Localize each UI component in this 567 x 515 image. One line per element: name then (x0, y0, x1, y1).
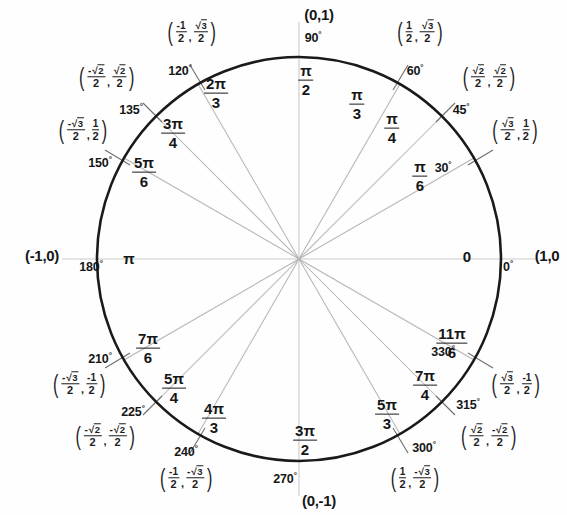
numerator: π (349, 87, 364, 105)
degree-symbol: ° (477, 397, 480, 406)
denominator: 4 (161, 133, 185, 150)
axis-point-bottom: (0,-1) (302, 493, 336, 508)
right-paren: ) (532, 120, 537, 142)
numerator: √2 (469, 425, 484, 436)
right-paren: ) (130, 67, 135, 89)
fraction-pi-over-4: π 4 (384, 111, 399, 146)
denominator: 2 (497, 77, 503, 89)
numerator: √3 (420, 21, 435, 32)
coordinate-pair: (-12,√32) (166, 21, 218, 44)
numerator: 5π (132, 155, 156, 173)
numerator: -1 (521, 373, 532, 384)
denominator: 2 (73, 130, 79, 142)
denominator: 2 (114, 436, 120, 448)
numerator: π (384, 111, 399, 129)
denominator: 2 (475, 77, 481, 89)
axis-point-right: (1,0 (535, 248, 560, 263)
denominator: 2 (505, 130, 511, 142)
numerator: √2 (493, 66, 508, 77)
denominator: 3 (202, 418, 226, 435)
numerator: 2π (204, 76, 228, 94)
degree-symbol: ° (433, 440, 436, 449)
degree-symbol: ° (109, 155, 112, 164)
coordinate-fraction: -√22 (490, 425, 510, 448)
fraction-5pi-over-4: 5π 4 (162, 371, 186, 406)
denominator: 4 (384, 128, 399, 145)
denominator: 2 (424, 32, 430, 44)
degree-label-60: 60° (407, 64, 424, 78)
radian-label-150: 5π 6 (132, 155, 156, 190)
degree-symbol: ° (448, 160, 451, 169)
axis-point-top: (0,1) (304, 7, 333, 22)
fraction-pi-over-3: π 3 (349, 87, 364, 122)
degree-value-60: 60 (407, 64, 421, 78)
left-paren: ( (492, 374, 497, 396)
numerator: -√2 (491, 425, 509, 436)
degree-symbol: ° (100, 259, 103, 268)
coordinate-pair: (12,-√32) (389, 467, 441, 490)
coordinate-fraction: -√22 (108, 425, 128, 448)
radian-label-210: 7π 6 (136, 331, 160, 366)
degree-value-270: 270 (273, 472, 293, 486)
numerator: √3 (194, 21, 209, 32)
denominator: 2 (524, 384, 530, 396)
left-paren: ( (168, 22, 173, 44)
fraction-4pi-over-3: 4π 3 (202, 401, 226, 436)
left-paren: ( (76, 426, 81, 448)
coordinate-fraction: √22 (111, 66, 128, 89)
coordinate-fraction: -√32 (412, 467, 432, 490)
fraction-pi-over-2: π 2 (298, 63, 313, 98)
degree-value-120: 120 (168, 64, 188, 78)
denominator: 2 (419, 478, 425, 490)
coordinate-label-120: (-12,√32) (166, 21, 218, 44)
radian-label-120: 2π 3 (204, 76, 228, 111)
degree-symbol: ° (142, 404, 145, 413)
left-paren: ( (79, 67, 84, 89)
numerator: 3π (293, 423, 317, 441)
degree-value-180: 180 (79, 260, 99, 274)
numerator: -√3 (186, 467, 204, 478)
coordinate-fraction: √32 (499, 119, 516, 142)
left-paren: ( (160, 468, 165, 490)
degree-value-30: 30 (435, 161, 449, 175)
numerator: 1 (405, 21, 413, 32)
left-paren: ( (463, 67, 468, 89)
degree-symbol: ° (294, 471, 297, 480)
radian-label-240: 4π 3 (202, 401, 226, 436)
numerator: -1 (86, 373, 97, 384)
degree-value-225: 225 (121, 405, 141, 419)
degree-symbol: ° (140, 102, 143, 111)
coordinate-fraction: -√32 (185, 467, 205, 490)
right-paren: ) (102, 120, 107, 142)
degree-value-135: 135 (119, 103, 139, 117)
coordinate-label-150: (-√32,12) (57, 119, 109, 142)
denominator: 2 (116, 77, 122, 89)
degree-symbol: ° (109, 351, 112, 360)
denominator: 2 (406, 32, 412, 44)
coordinate-label-300: (12,-√32) (389, 467, 441, 490)
denominator: 2 (504, 384, 510, 396)
right-paren: ) (510, 67, 515, 89)
numerator: -1 (168, 467, 179, 478)
coordinate-fraction: -12 (175, 21, 188, 44)
coordinate-pair: (√22,-√22) (459, 425, 518, 448)
degree-label-180: 180° (79, 260, 102, 274)
radian-label-315: 7π 4 (413, 368, 437, 403)
degree-label-150: 150° (88, 156, 111, 170)
left-paren: ( (391, 468, 396, 490)
coordinate-pair: (√32,12) (491, 119, 540, 142)
radian-label-180: π (123, 251, 134, 266)
coordinate-label-315: (√22,-√22) (459, 425, 518, 448)
right-paren: ) (434, 468, 439, 490)
degree-label-270: 270° (273, 472, 296, 486)
coordinate-fraction: -12 (520, 373, 533, 396)
degree-label-90: 90° (305, 31, 322, 45)
numerator: -√2 (109, 425, 127, 436)
degree-label-45: 45° (453, 103, 470, 117)
denominator: 2 (89, 436, 95, 448)
radian-label-330: 11π 6 (436, 326, 467, 361)
numerator: 3π (161, 116, 185, 134)
coordinate-fraction: -12 (167, 467, 180, 490)
degree-symbol: ° (195, 444, 198, 453)
right-paren: ) (211, 22, 216, 44)
